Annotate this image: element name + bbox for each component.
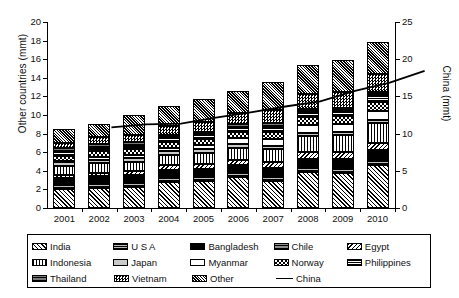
bar-segment-bangladesh[interactable] [227, 168, 249, 173]
bar-stack[interactable] [262, 22, 284, 208]
bar-segment-u-s-a[interactable] [227, 173, 249, 178]
bar-segment-u-s-a[interactable] [158, 177, 180, 182]
bar-segment-norway[interactable] [88, 151, 110, 157]
bar-segment-indonesia[interactable] [193, 153, 215, 164]
bar-segment-myanmar[interactable] [297, 125, 319, 132]
bar-segment-chile[interactable] [53, 178, 75, 181]
bar-segment-japan[interactable] [227, 144, 249, 148]
bar-segment-u-s-a[interactable] [262, 176, 284, 181]
bar-segment-u-s-a[interactable] [332, 168, 354, 173]
bar-segment-vietnam[interactable] [193, 122, 215, 132]
bar-segment-other[interactable] [297, 65, 319, 94]
bar-segment-u-s-a[interactable] [193, 176, 215, 181]
bar-segment-thailand[interactable] [367, 92, 389, 96]
bar-segment-philippines[interactable] [297, 112, 319, 117]
bar-segment-philippines[interactable] [123, 146, 145, 150]
bar-segment-thailand[interactable] [88, 144, 110, 148]
bar-segment-other[interactable] [332, 60, 354, 92]
bar-stack[interactable] [193, 22, 215, 208]
bar-segment-myanmar[interactable] [227, 138, 249, 144]
bar-segment-india[interactable] [367, 165, 389, 208]
bar-segment-bangladesh[interactable] [158, 173, 180, 178]
bar-segment-myanmar[interactable] [158, 148, 180, 152]
bar-segment-norway[interactable] [123, 149, 145, 155]
bar-segment-india[interactable] [297, 172, 319, 208]
legend-item-india[interactable]: India [32, 241, 113, 252]
bar-segment-egypt[interactable] [367, 143, 389, 150]
bar-segment-vietnam[interactable] [227, 113, 249, 124]
bar-segment-philippines[interactable] [262, 127, 284, 132]
bar-segment-japan[interactable] [123, 158, 145, 162]
bar-segment-thailand[interactable] [227, 124, 249, 128]
bar-segment-other[interactable] [367, 42, 389, 75]
bar-stack[interactable] [297, 22, 319, 208]
bar-segment-japan[interactable] [367, 120, 389, 124]
bar-segment-japan[interactable] [158, 151, 180, 155]
bar-segment-philippines[interactable] [88, 148, 110, 152]
bar-segment-thailand[interactable] [193, 132, 215, 136]
bar-segment-japan[interactable] [262, 146, 284, 150]
bar-stack[interactable] [88, 22, 110, 208]
bar-segment-thailand[interactable] [158, 135, 180, 139]
bar-segment-chile[interactable] [297, 159, 319, 162]
bar-segment-india[interactable] [193, 181, 215, 208]
bar-segment-norway[interactable] [332, 116, 354, 124]
bar-segment-bangladesh[interactable] [53, 181, 75, 185]
legend-item-vietnam[interactable]: Vietnam [114, 273, 192, 284]
bar-stack[interactable] [332, 22, 354, 208]
bar-segment-egypt[interactable] [332, 152, 354, 159]
legend-item-other[interactable]: Other [192, 273, 276, 284]
bar-segment-vietnam[interactable] [262, 110, 284, 123]
bar-segment-bangladesh[interactable] [297, 162, 319, 168]
legend-item-china[interactable]: China [276, 273, 350, 284]
bar-segment-japan[interactable] [332, 132, 354, 136]
legend-item-philippines[interactable]: Philippines [347, 257, 426, 268]
bar-stack[interactable] [367, 22, 389, 208]
bar-segment-indonesia[interactable] [367, 123, 389, 143]
bar-segment-indonesia[interactable] [297, 136, 319, 152]
legend-item-japan[interactable]: Japan [113, 257, 190, 268]
bar-segment-vietnam[interactable] [297, 94, 319, 109]
bar-segment-indonesia[interactable] [53, 166, 75, 174]
bar-segment-egypt[interactable] [297, 152, 319, 159]
bar-segment-norway[interactable] [262, 132, 284, 139]
bar-segment-indonesia[interactable] [227, 148, 249, 160]
bar-segment-chile[interactable] [88, 176, 110, 179]
bar-stack[interactable] [227, 22, 249, 208]
bar-segment-india[interactable] [227, 177, 249, 208]
bar-stack[interactable] [123, 22, 145, 208]
legend-item-indonesia[interactable]: Indonesia [32, 257, 113, 268]
bar-stack[interactable] [53, 22, 75, 208]
bar-segment-bangladesh[interactable] [367, 153, 389, 160]
bar-segment-vietnam[interactable] [88, 137, 110, 144]
bar-segment-myanmar[interactable] [193, 145, 215, 150]
bar-segment-u-s-a[interactable] [123, 182, 145, 187]
bar-segment-india[interactable] [332, 173, 354, 208]
legend-item-u-s-a[interactable]: U S A [113, 241, 190, 252]
legend-item-norway[interactable]: Norway [274, 257, 347, 268]
bar-segment-egypt[interactable] [193, 164, 215, 169]
bar-segment-japan[interactable] [53, 162, 75, 166]
legend-item-thailand[interactable]: Thailand [32, 273, 114, 284]
bar-segment-indonesia[interactable] [158, 155, 180, 165]
bar-segment-thailand[interactable] [53, 148, 75, 152]
bar-segment-norway[interactable] [193, 139, 215, 145]
legend-item-bangladesh[interactable]: Bangladesh [190, 241, 273, 252]
bar-segment-myanmar[interactable] [123, 155, 145, 158]
bar-segment-norway[interactable] [53, 156, 75, 161]
bar-segment-bangladesh[interactable] [88, 179, 110, 183]
bar-segment-philippines[interactable] [53, 152, 75, 156]
bar-segment-chile[interactable] [367, 150, 389, 153]
bar-segment-philippines[interactable] [332, 111, 354, 116]
bar-segment-egypt[interactable] [158, 165, 180, 170]
bar-segment-egypt[interactable] [88, 173, 110, 177]
bar-segment-vietnam[interactable] [53, 143, 75, 149]
bar-segment-other[interactable] [123, 115, 145, 135]
bar-segment-india[interactable] [53, 189, 75, 208]
bar-segment-indonesia[interactable] [332, 135, 354, 152]
bar-segment-egypt[interactable] [227, 160, 249, 166]
bar-segment-india[interactable] [123, 187, 145, 208]
bar-segment-philippines[interactable] [227, 128, 249, 132]
bar-segment-indonesia[interactable] [88, 163, 110, 172]
bar-segment-u-s-a[interactable] [88, 183, 110, 188]
